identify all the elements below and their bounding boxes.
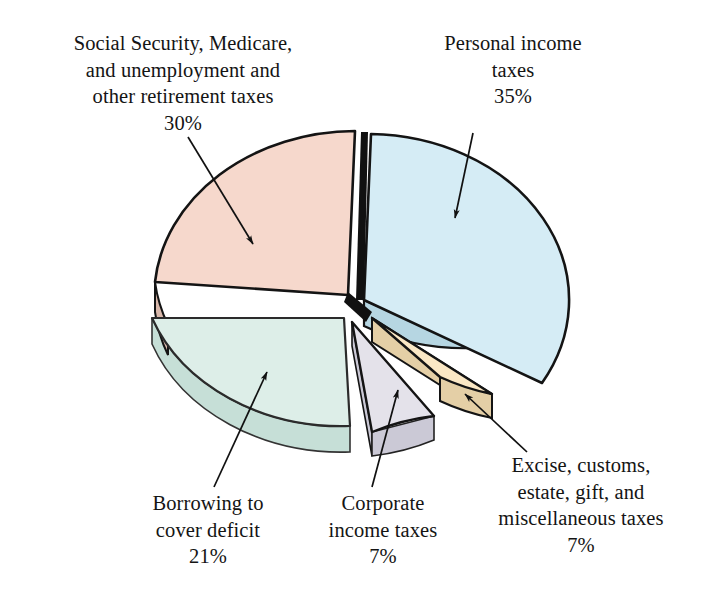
callout-excise-percent: 7% bbox=[455, 532, 707, 559]
callout-social-line2: and unemployment and bbox=[86, 59, 280, 81]
callout-personal-line1: Personal income bbox=[444, 32, 582, 54]
callout-excise-line2: estate, gift, and bbox=[518, 481, 645, 503]
callout-label-social: Social Security, Medicare, and unemploym… bbox=[18, 30, 348, 137]
callout-social-line1: Social Security, Medicare, bbox=[74, 32, 293, 54]
callout-personal-percent: 35% bbox=[398, 83, 628, 110]
callout-personal-line2: taxes bbox=[492, 59, 535, 81]
callout-excise-line1: Excise, customs, bbox=[512, 454, 651, 476]
callout-borrowing-percent: 21% bbox=[108, 543, 308, 570]
callout-corporate-line1: Corporate bbox=[342, 492, 425, 514]
callout-social-percent: 30% bbox=[18, 110, 348, 137]
callout-label-excise: Excise, customs, estate, gift, and misce… bbox=[455, 452, 707, 559]
callout-corporate-percent: 7% bbox=[288, 543, 478, 570]
callout-label-corporate: Corporate income taxes 7% bbox=[288, 490, 478, 570]
callout-label-borrowing: Borrowing to cover deficit 21% bbox=[108, 490, 308, 570]
pie-chart-figure: Social Security, Medicare, and unemploym… bbox=[0, 0, 719, 602]
callout-social-line3: other retirement taxes bbox=[93, 85, 274, 107]
callout-corporate-line2: income taxes bbox=[329, 519, 438, 541]
leader-line-excise bbox=[465, 394, 527, 452]
slice-social[interactable] bbox=[155, 131, 355, 295]
callout-label-personal: Personal income taxes 35% bbox=[398, 30, 628, 110]
callout-borrowing-line2: cover deficit bbox=[156, 519, 260, 541]
callout-excise-line3: miscellaneous taxes bbox=[498, 507, 663, 529]
callout-borrowing-line1: Borrowing to bbox=[152, 492, 263, 514]
